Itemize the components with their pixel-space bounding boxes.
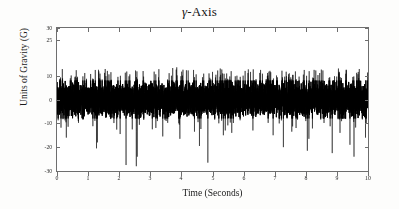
- signal-trace-canvas: [57, 28, 368, 171]
- y-axis-tick-label: -30: [30, 168, 52, 174]
- y-axis-title: Units of Gravity (G): [19, 0, 29, 137]
- x-axis-tick-top: [337, 28, 338, 32]
- x-axis-tick-top: [119, 28, 120, 32]
- y-axis-tick-right: [365, 76, 369, 77]
- y-axis-tick: [56, 100, 60, 101]
- y-axis-tick: [56, 40, 60, 41]
- x-axis-tick-label: 1: [80, 175, 96, 182]
- x-axis-tick-label: 10: [360, 175, 376, 182]
- x-axis-title: Time (Seconds): [56, 188, 369, 198]
- x-axis-tick-label: 5: [205, 175, 221, 182]
- x-axis-tick-label: 0: [49, 175, 65, 182]
- x-axis-tick-label: 6: [236, 175, 252, 182]
- x-axis-tick-top: [181, 28, 182, 32]
- x-axis-tick-top: [150, 28, 151, 32]
- chart-figure: γ-Axis Units of Gravity (G) 3025100-10-2…: [0, 0, 399, 209]
- x-axis-tick-label: 2: [111, 175, 127, 182]
- x-axis-tick-top: [306, 28, 307, 32]
- y-axis-tick-right: [365, 100, 369, 101]
- y-axis-tick-label: 0: [30, 97, 52, 103]
- x-axis-tick-top: [88, 28, 89, 32]
- y-axis-tick: [56, 147, 60, 148]
- y-axis-tick-label: 25: [30, 37, 52, 43]
- x-axis-tick-top: [368, 28, 369, 32]
- y-axis-tick-right: [365, 40, 369, 41]
- y-axis-tick-right: [365, 123, 369, 124]
- y-axis-tick: [56, 123, 60, 124]
- y-axis-tick: [56, 76, 60, 77]
- chart-title-suffix: -Axis: [187, 4, 217, 19]
- x-axis-tick-top: [57, 28, 58, 32]
- y-axis-tick-label: 10: [30, 73, 52, 79]
- x-axis-tick-label: 7: [267, 175, 283, 182]
- x-axis-tick-label: 3: [142, 175, 158, 182]
- plot-area: [56, 27, 369, 172]
- y-axis-tick-label: -20: [30, 144, 52, 150]
- x-axis-tick-label: 4: [173, 175, 189, 182]
- x-axis-tick-top: [213, 28, 214, 32]
- chart-title: γ-Axis: [0, 4, 399, 20]
- y-axis-tick-right: [365, 147, 369, 148]
- x-axis-tick-label: 9: [329, 175, 345, 182]
- x-axis-tick-label: 8: [298, 175, 314, 182]
- y-axis-tick-label: 30: [30, 25, 52, 31]
- y-axis-tick-label: -10: [30, 120, 52, 126]
- x-axis-tick-top: [275, 28, 276, 32]
- x-axis-tick-top: [244, 28, 245, 32]
